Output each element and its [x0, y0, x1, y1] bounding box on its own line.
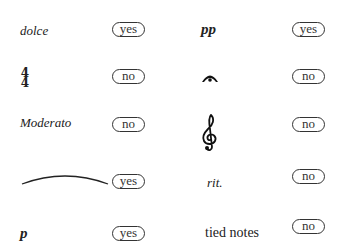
term-dolce: dolce: [20, 24, 48, 37]
time-signature-icon: 4 4: [20, 68, 30, 88]
answer-pill-time-signature[interactable]: no: [112, 69, 145, 84]
treble-clef-icon: [199, 113, 221, 153]
answer-pill-ritardando[interactable]: no: [292, 169, 325, 184]
answer-pill-fermata[interactable]: no: [292, 69, 325, 84]
answer-pill-piano[interactable]: yes: [112, 226, 145, 241]
answer-pill-moderato[interactable]: no: [112, 117, 145, 132]
term-moderato: Moderato: [20, 116, 71, 129]
term-piano: p: [20, 226, 28, 241]
answer-pill-treble-clef[interactable]: no: [292, 117, 325, 132]
time-signature-denominator: 4: [20, 78, 30, 88]
answer-pill-slur[interactable]: yes: [112, 174, 145, 189]
answer-pill-dolce[interactable]: yes: [112, 22, 145, 37]
term-tied-notes: tied notes: [205, 226, 259, 240]
answer-pill-tied-notes[interactable]: no: [292, 219, 325, 234]
slur-icon: [20, 172, 110, 186]
answer-pill-pianissimo[interactable]: yes: [292, 22, 325, 37]
fermata-icon: [201, 71, 219, 83]
term-ritardando: rit.: [207, 176, 223, 189]
term-pianissimo: pp: [201, 22, 216, 37]
